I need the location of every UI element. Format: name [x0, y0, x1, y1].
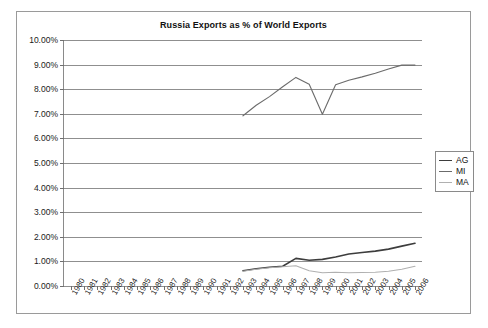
y-tick-label: 6.00%	[34, 133, 58, 143]
legend-item-ma[interactable]: MA	[439, 177, 469, 188]
y-tick-label: 8.00%	[34, 84, 58, 94]
y-tick-label: 2.00%	[34, 232, 58, 242]
y-tick-label: 0.00%	[34, 281, 58, 291]
y-tick-label: 9.00%	[34, 60, 58, 70]
series-lines	[64, 40, 422, 286]
legend-swatch-icon	[439, 160, 452, 161]
legend-label: MA	[456, 177, 469, 188]
y-tick-mark	[60, 286, 64, 287]
legend-swatch-icon	[439, 171, 452, 172]
y-tick-label: 10.00%	[29, 35, 58, 45]
plot-area: 0.00%1.00%2.00%3.00%4.00%5.00%6.00%7.00%…	[63, 40, 422, 287]
y-tick-label: 4.00%	[34, 183, 58, 193]
series-line-mi	[243, 65, 415, 116]
legend-swatch-icon	[439, 182, 452, 183]
legend-label: MI	[456, 166, 465, 177]
legend-item-ag[interactable]: AG	[439, 155, 469, 166]
y-tick-label: 1.00%	[34, 256, 58, 266]
series-line-ag	[243, 243, 415, 271]
chart-legend: AGMIMA	[435, 151, 474, 192]
chart-title: Russia Exports as % of World Exports	[17, 20, 470, 30]
legend-item-mi[interactable]: MI	[439, 166, 469, 177]
y-tick-label: 5.00%	[34, 158, 58, 168]
chart-container: Russia Exports as % of World Exports 0.0…	[16, 11, 471, 314]
legend-label: AG	[456, 155, 468, 166]
y-tick-label: 7.00%	[34, 109, 58, 119]
y-tick-label: 3.00%	[34, 207, 58, 217]
